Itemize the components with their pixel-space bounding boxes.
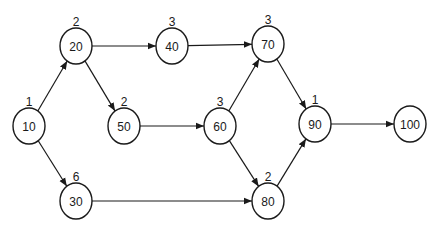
edge-20-to-50 [85,61,115,111]
node-30: 306 [60,170,92,219]
node-100: 100 [394,106,426,142]
node-label: 100 [400,118,420,132]
node-40: 403 [156,15,188,64]
node-duration-label: 1 [26,95,33,109]
node-label: 40 [165,40,179,54]
node-duration-label: 3 [265,13,272,27]
node-label: 60 [213,120,227,134]
node-duration-label: 3 [169,15,176,29]
edge-60-to-80 [229,141,258,187]
node-label: 70 [261,38,275,52]
edge-80-to-90 [277,139,306,186]
edge-10-to-30 [38,141,67,187]
node-label: 50 [117,120,131,134]
network-diagram: 101202306403502603703802901100 [0,0,440,230]
node-duration-label: 2 [121,95,128,109]
node-label: 10 [22,120,36,134]
node-10: 101 [13,95,45,144]
node-label: 90 [308,118,322,132]
node-duration-label: 3 [217,95,224,109]
node-duration-label: 2 [265,170,272,184]
node-label: 30 [69,195,83,209]
node-label: 20 [69,40,83,54]
node-label: 80 [261,195,275,209]
node-20: 202 [60,15,92,64]
node-duration-label: 2 [73,15,80,29]
edge-10-to-20 [38,61,67,111]
node-50: 502 [108,95,140,144]
edge-40-to-70 [188,44,252,45]
node-60: 603 [204,95,236,144]
node-80: 802 [252,170,284,219]
node-70: 703 [252,13,284,62]
edge-70-to-90 [277,59,306,109]
node-duration-label: 1 [312,93,319,107]
edge-60-to-70 [229,59,259,111]
node-duration-label: 6 [73,170,80,184]
node-90: 901 [299,93,331,142]
